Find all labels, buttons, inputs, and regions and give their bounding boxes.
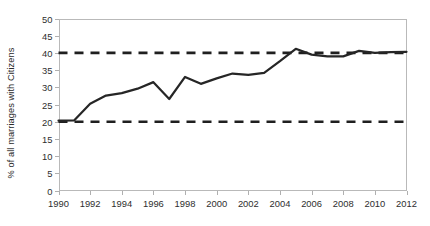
chart-container: % of all marriages with Citizens 0510152…	[0, 0, 430, 226]
chart-plot-svg	[0, 0, 430, 226]
data-series-line	[59, 49, 407, 121]
